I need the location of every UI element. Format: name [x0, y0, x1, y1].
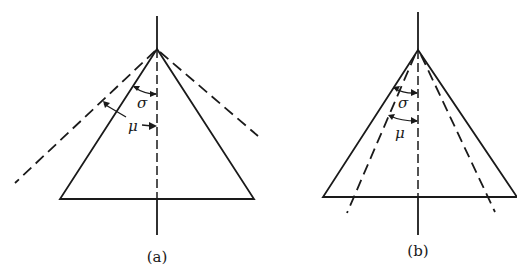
mu-label-a: μ	[128, 117, 138, 135]
panel-a: σ μ (a)	[15, 16, 258, 266]
dashed-line-left-b	[347, 55, 415, 213]
dashed-line-right-a	[160, 52, 258, 136]
caption-b: (b)	[407, 242, 428, 260]
dashed-line-right-b	[421, 55, 495, 212]
triangle-a	[60, 49, 254, 199]
diagram-canvas: σ μ (a) σ μ (b)	[0, 0, 517, 277]
caption-a: (a)	[147, 248, 168, 266]
mu-arrowhead-right-a	[149, 122, 157, 130]
sigma-label-b: σ	[398, 94, 409, 112]
mu-arrowhead-right-b	[411, 117, 418, 124]
sigma-arrowhead-right-b	[411, 89, 418, 96]
panel-b: σ μ (b)	[323, 12, 517, 260]
sigma-arrowhead-right-a	[150, 91, 157, 97]
sigma-label-a: σ	[137, 94, 148, 112]
triangle-b	[323, 50, 517, 197]
mu-label-b: μ	[395, 124, 405, 142]
